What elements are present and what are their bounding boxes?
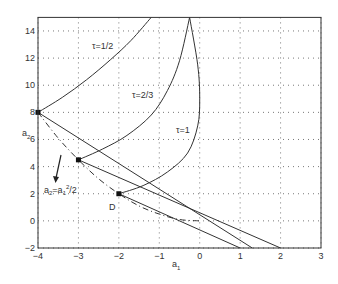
x-tick-label: 1 bbox=[238, 251, 243, 261]
y-tick-label: 0 bbox=[30, 216, 35, 226]
tick-labels: −4−3−2−10123−202468101214 bbox=[25, 26, 324, 261]
point-d-label: D bbox=[109, 202, 116, 212]
x-tick-label: 2 bbox=[278, 251, 283, 261]
x-tick-label: −3 bbox=[73, 251, 83, 261]
y-tick-label: 6 bbox=[30, 134, 35, 144]
chart: −4−3−2−10123−202468101214 τ=1/2 τ=2/3 τ=… bbox=[0, 0, 338, 284]
point-marker bbox=[116, 191, 121, 196]
point-marker bbox=[76, 157, 81, 162]
series bbox=[36, 17, 281, 248]
x-tick-label: 0 bbox=[197, 251, 202, 261]
x-tick-label: −1 bbox=[154, 251, 164, 261]
x-tick-label: 3 bbox=[318, 251, 323, 261]
y-tick-label: 10 bbox=[25, 80, 35, 90]
y-tick-label: 14 bbox=[25, 26, 35, 36]
series-line bbox=[119, 17, 200, 193]
tau-two-thirds-label: τ=2/3 bbox=[132, 90, 153, 100]
series-line bbox=[38, 112, 252, 248]
y-tick-label: 4 bbox=[30, 162, 35, 172]
y-axis-label: a2 bbox=[22, 128, 31, 140]
arrow-icon bbox=[53, 155, 61, 183]
x-tick-label: −2 bbox=[114, 251, 124, 261]
y-tick-label: 8 bbox=[30, 107, 35, 117]
tau-half-label: τ=1/2 bbox=[92, 41, 113, 51]
x-axis-label: a1 bbox=[172, 259, 181, 271]
y-tick-label: 2 bbox=[30, 189, 35, 199]
parabola-label: a2=a12/2 bbox=[44, 184, 77, 196]
series-line bbox=[78, 17, 189, 159]
y-tick-label: −2 bbox=[25, 243, 35, 253]
tau-one-label: τ=1 bbox=[176, 125, 190, 135]
y-tick-label: 12 bbox=[25, 53, 35, 63]
